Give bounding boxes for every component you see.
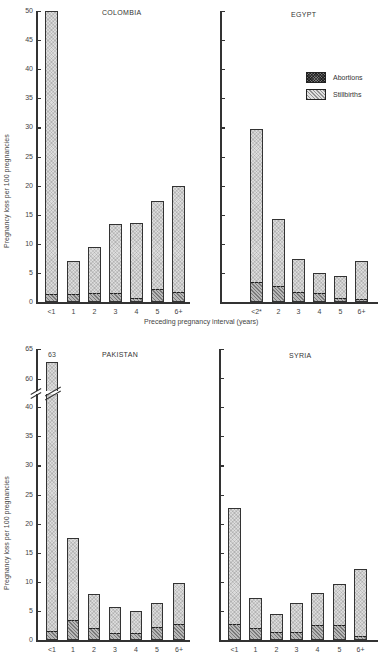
x-tick-label: 1 (63, 646, 83, 653)
bar-segment-abortions (46, 294, 57, 301)
y-tick-label: 60 (19, 375, 33, 382)
y-tick (37, 640, 41, 641)
y-tick-label: 5 (19, 607, 33, 614)
y-tick (220, 640, 224, 641)
x-tick-label: 6+ (351, 646, 371, 653)
x-axis-egypt (220, 302, 378, 304)
y-tick-label: 25 (19, 491, 33, 498)
y-tick (220, 495, 224, 496)
bar-colombia-2 (88, 247, 101, 302)
bar-pakistan-2 (88, 594, 100, 640)
y-tick (37, 11, 41, 12)
y-tick (221, 273, 225, 274)
bar-pakistan-6 (173, 583, 185, 640)
y-tick-label: 40 (19, 403, 33, 410)
x-tick-label: 4 (127, 308, 147, 315)
y-tick-label: 30 (19, 461, 33, 468)
bar-syria-2 (270, 614, 283, 640)
panel-title-colombia: COLOMBIA (102, 9, 141, 16)
bar-egypt-4 (334, 276, 347, 302)
y-tick-label: 15 (19, 211, 33, 218)
y-tick-label: 10 (19, 578, 33, 585)
x-tick-label: 3 (289, 308, 309, 315)
y-tick (220, 553, 224, 554)
bar-segment-abortions (312, 625, 323, 639)
bar-segment-abortions (173, 292, 184, 301)
x-axis-colombia (36, 302, 190, 304)
bar-segment-abortions (250, 628, 261, 639)
x-tick-label: 2 (267, 646, 287, 653)
y-tick (221, 127, 225, 128)
x-tick-label: 1 (246, 646, 266, 653)
bar-colombia-4 (130, 223, 143, 302)
y-axis-title-top: Pregnancy loss per 100 pregnancies (3, 134, 10, 248)
y-tick-label: 20 (19, 520, 33, 527)
y-tick-label: 50 (19, 7, 33, 14)
y-tick-label: 20 (19, 182, 33, 189)
x-tick-label: 5 (148, 308, 168, 315)
y-tick (37, 157, 41, 158)
x-tick-label: 6+ (169, 646, 189, 653)
y-tick (220, 378, 224, 379)
y-tick (37, 127, 41, 128)
bar-colombia-1 (67, 261, 80, 302)
y-tick (220, 611, 224, 612)
bar-egypt-5 (355, 261, 368, 302)
legend-swatch-stillbirths (306, 89, 326, 100)
bar-value-label: 63 (44, 351, 60, 358)
bar-segment-abortions (89, 293, 100, 301)
y-tick-label: 35 (19, 94, 33, 101)
bar-segment-abortions (47, 631, 57, 639)
y-tick (37, 495, 41, 496)
bar-segment-abortions (152, 627, 162, 639)
bar-colombia-6 (172, 186, 185, 302)
bar-segment-abortions (273, 286, 284, 301)
x-tick-label: 1 (64, 308, 84, 315)
bar-segment-abortions (174, 624, 184, 639)
bar-pakistan-4 (130, 611, 142, 640)
y-tick (37, 407, 41, 408)
y-tick-label: 15 (19, 549, 33, 556)
x-tick-label: 2 (85, 308, 105, 315)
y-tick (220, 436, 224, 437)
y-tick-label: 10 (19, 240, 33, 247)
panel-title-pakistan: PAKISTAN (102, 351, 138, 358)
y-tick (220, 349, 224, 350)
y-tick-label: 65 (19, 345, 33, 352)
bar-segment-abortions (335, 298, 346, 301)
y-tick (220, 524, 224, 525)
y-tick (221, 186, 225, 187)
bar-segment-abortions (251, 282, 262, 301)
bar-segment-abortions (229, 624, 240, 639)
x-axis-pakistan (36, 640, 190, 642)
x-tick-label: 2 (269, 308, 289, 315)
y-tick (37, 553, 41, 554)
y-tick-label: 35 (19, 432, 33, 439)
y-tick (37, 379, 41, 380)
bar-pakistan-3 (109, 607, 121, 640)
x-tick-label: 2 (84, 646, 104, 653)
x-tick-label: 5 (331, 308, 351, 315)
bar-egypt-0 (250, 129, 263, 302)
y-tick (37, 215, 41, 216)
bar-pakistan-1 (67, 538, 79, 640)
x-tick-label: <1 (225, 646, 245, 653)
bar-segment-abortions (110, 633, 120, 639)
bar-segment-abortions (293, 292, 304, 301)
bar-segment-abortions (355, 636, 366, 639)
y-tick-label: 5 (19, 269, 33, 276)
y-tick-label: 0 (19, 298, 33, 305)
x-tick-label: <2* (247, 308, 267, 315)
bar-segment-abortions (356, 299, 367, 301)
x-tick-label: <1 (42, 308, 62, 315)
bar-syria-4 (311, 593, 324, 640)
y-tick (37, 465, 41, 466)
y-tick (221, 215, 225, 216)
bar-colombia-3 (109, 224, 122, 302)
x-axis-syria (219, 640, 378, 642)
y-tick (37, 582, 41, 583)
bar-syria-6 (354, 569, 367, 640)
y-tick (37, 98, 41, 99)
bar-colombia-0 (45, 11, 58, 302)
y-tick (220, 465, 224, 466)
